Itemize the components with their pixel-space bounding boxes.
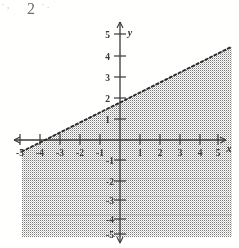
x-tick-label--2: -2 xyxy=(76,148,84,158)
scanned-page-background: ·, 2 ·. xyxy=(0,0,239,248)
x-axis-label: x xyxy=(226,143,232,154)
x-tick-label-4: 4 xyxy=(198,148,203,158)
x-tick-label--5: -5 xyxy=(16,148,24,158)
x-tick-label-5: 5 xyxy=(216,148,221,158)
y-tick-label--1: -1 xyxy=(106,156,114,166)
coordinate-graph: -5 -4 -3 -2 -1 1 2 3 4 5 5 4 3 2 1 -1 -2… xyxy=(0,0,239,248)
x-tick-label--4: -4 xyxy=(36,148,44,158)
y-tick-label--4: -4 xyxy=(106,215,114,225)
y-tick-label-5: 5 xyxy=(105,30,110,40)
y-tick-label-2: 2 xyxy=(105,94,110,104)
x-tick-label--3: -3 xyxy=(56,148,64,158)
x-tick-label-2: 2 xyxy=(158,148,163,158)
y-tick-label--2: -2 xyxy=(106,177,114,187)
y-tick-label--5: -5 xyxy=(106,230,114,240)
y-tick-label-3: 3 xyxy=(105,73,110,83)
y-axis-label: y xyxy=(127,27,133,38)
x-tick-label--1: -1 xyxy=(96,148,104,158)
y-tick-label--3: -3 xyxy=(106,196,114,206)
x-tick-label-1: 1 xyxy=(138,148,143,158)
x-tick-label-3: 3 xyxy=(178,148,183,158)
y-tick-label-1: 1 xyxy=(105,115,110,125)
y-tick-label-4: 4 xyxy=(105,52,110,62)
